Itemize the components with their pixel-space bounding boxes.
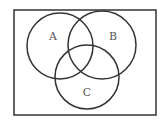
set-c-label: C <box>83 86 91 99</box>
set-b-label: B <box>109 30 117 43</box>
set-b-circle <box>68 11 136 79</box>
set-a-circle <box>27 13 93 79</box>
universe-rectangle <box>14 10 156 115</box>
venn-diagram: A B C <box>0 0 160 120</box>
set-a-label: A <box>48 30 58 43</box>
set-c-circle <box>55 45 119 109</box>
